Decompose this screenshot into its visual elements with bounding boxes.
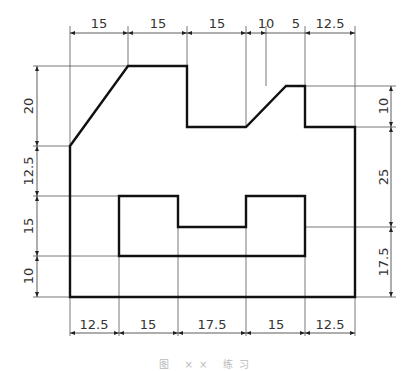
dim-bottom-4: 15 [268, 317, 285, 332]
dim-left-4: 10 [21, 268, 36, 285]
dim-top-6: 12.5 [316, 16, 345, 31]
dim-bottom-5: 12.5 [316, 317, 345, 332]
outer-profile [70, 66, 355, 297]
dim-top-4: 10 [258, 16, 275, 31]
right-dimension-labels: 10 25 17.5 [376, 98, 391, 277]
dim-right-1: 10 [376, 98, 391, 115]
dim-top-2: 15 [150, 16, 167, 31]
dim-left-3: 15 [21, 218, 36, 235]
dim-top-3: 15 [209, 16, 226, 31]
top-dimension-labels: 15 15 15 10 5 12.5 [91, 16, 345, 31]
extension-lines [33, 26, 396, 336]
dimension-lines [37, 33, 391, 333]
dim-right-3: 17.5 [376, 248, 391, 277]
inner-slot-profile [119, 196, 305, 256]
dim-top-5: 5 [292, 16, 300, 31]
dim-bottom-3: 17.5 [198, 317, 227, 332]
dim-left-1: 20 [21, 98, 36, 115]
dim-top-1: 15 [91, 16, 108, 31]
dim-bottom-1: 12.5 [80, 317, 109, 332]
dim-bottom-2: 15 [140, 317, 157, 332]
figure-caption: 图 ×× 练习 [0, 356, 414, 371]
dim-left-2: 12.5 [21, 157, 36, 186]
dim-right-2: 25 [376, 169, 391, 186]
